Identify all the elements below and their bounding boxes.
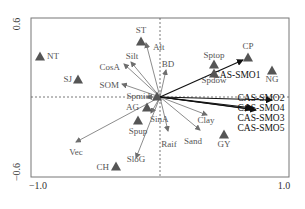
env-arrow-label: CosA xyxy=(99,62,120,72)
rda-biplot: AltSiltCosASOMBDClaySandRaifSinASloGVec … xyxy=(0,0,305,209)
site-marker-triangle-icon xyxy=(133,116,143,125)
site-label: SJ xyxy=(63,74,72,84)
site-marker-triangle-icon xyxy=(136,37,146,46)
env-arrow-label: SloG xyxy=(127,154,146,164)
site-label: Spmid xyxy=(126,91,150,101)
site-label: NT xyxy=(47,51,59,61)
environmental-arrows: AltSiltCosASOMBDClaySandRaifSinASloGVec xyxy=(69,42,215,164)
response-arrow-label: CAS-SMO3 xyxy=(238,113,285,123)
site-marker-triangle-icon xyxy=(142,103,152,112)
env-arrow-label: Silt xyxy=(126,51,139,61)
site-label: Spup xyxy=(129,126,148,136)
site-marker-triangle-icon xyxy=(111,162,121,171)
env-arrow-label: Clay xyxy=(198,115,215,125)
env-arrow-label: Raif xyxy=(161,139,177,149)
y-axis-min-label: −0.6 xyxy=(11,163,22,181)
site-marker-triangle-icon xyxy=(243,53,253,62)
env-arrow-label: SOM xyxy=(99,80,119,90)
site-marker-triangle-icon xyxy=(209,60,219,69)
site-label: Spdow xyxy=(201,75,227,85)
site-label: GY xyxy=(218,139,231,149)
env-arrow-bd xyxy=(160,70,166,97)
site-label: CH xyxy=(96,162,109,172)
site-label: NG xyxy=(266,74,279,84)
env-arrow-label: Alt xyxy=(153,42,165,52)
site-marker-triangle-icon xyxy=(73,75,83,84)
site-label: Sptop xyxy=(203,50,225,60)
site-label: ST xyxy=(136,25,147,35)
y-axis-max-label: 0.6 xyxy=(11,18,22,31)
site-marker-triangle-icon xyxy=(219,130,229,139)
env-arrow-label: Sand xyxy=(184,136,203,146)
biplot-canvas: AltSiltCosASOMBDClaySandRaifSinASloGVec … xyxy=(0,0,305,209)
x-axis-max-label: 1.0 xyxy=(278,180,291,191)
env-arrow-label: Vec xyxy=(69,147,83,157)
site-label: AG xyxy=(126,102,139,112)
response-arrows: CAS-SMO1CAS-SMO2CAS-SMO4CAS-SMO3CAS-SMO5 xyxy=(160,60,285,133)
env-arrow-label: BD xyxy=(162,59,175,69)
response-arrow-label: CAS-SMO5 xyxy=(238,123,285,133)
x-axis-min-label: −1.0 xyxy=(29,180,47,191)
site-label: CP xyxy=(242,41,253,51)
response-arrow-label: CAS-SMO2 xyxy=(238,93,285,103)
site-marker-triangle-icon xyxy=(35,52,45,61)
